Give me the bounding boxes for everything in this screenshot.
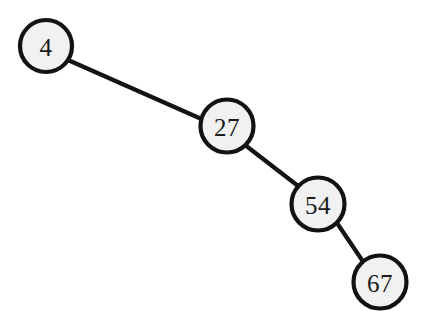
tree-node-4[interactable]: 4: [20, 20, 72, 72]
tree-node-label-27: 27: [214, 114, 240, 141]
tree-node-67[interactable]: 67: [354, 256, 407, 309]
tree-edge-n2-to-n3: [245, 145, 302, 189]
tree-node-label-67: 67: [367, 270, 393, 297]
tree-node-label-54: 54: [305, 192, 331, 219]
tree-node-27[interactable]: 27: [201, 100, 254, 153]
binary-search-tree-figure: 4275467: [0, 0, 433, 326]
tree-node-54[interactable]: 54: [292, 178, 345, 231]
tree-node-label-4: 4: [40, 34, 53, 61]
tree-edge-n1-to-n2: [68, 60, 206, 121]
tree-edge-n3-to-n4: [337, 223, 364, 263]
tree-diagram-canvas: 4275467: [0, 0, 433, 326]
